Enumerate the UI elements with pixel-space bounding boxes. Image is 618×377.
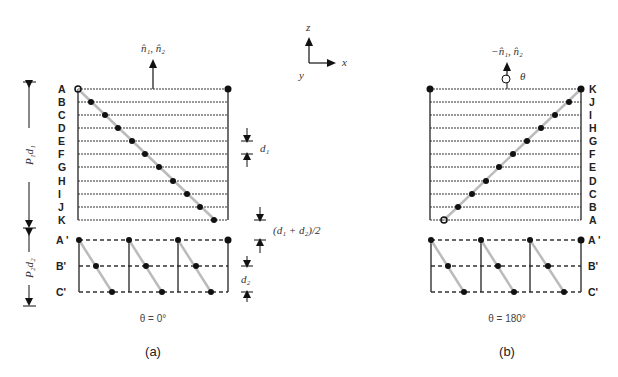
svg-text:B: B — [58, 96, 66, 108]
dim-p2d2-label: P₂d₂ — [23, 258, 35, 279]
svg-text:H: H — [589, 122, 597, 134]
diagram-canvas: n̂₁, n̂₂ — [0, 0, 618, 377]
svg-text:B': B' — [588, 260, 598, 272]
svg-text:F: F — [58, 148, 65, 160]
caption-a: (a) — [145, 344, 161, 359]
svg-text:B': B' — [56, 260, 66, 272]
svg-text:F: F — [589, 148, 596, 160]
dim-d1d2-label: (d₁ + d₂)/2 — [273, 224, 321, 237]
layer-stack-2-a — [76, 237, 232, 296]
svg-text:J: J — [589, 96, 595, 108]
panel-b: θ −n̂₁, n̂₂ — [427, 45, 601, 359]
svg-text:G: G — [58, 161, 66, 173]
svg-text:C': C' — [588, 286, 598, 298]
row-labels-a: A B C D E F G H I J K A ' B' C' — [56, 83, 69, 298]
caption-b: (b) — [499, 344, 515, 359]
svg-text:D: D — [589, 175, 597, 187]
svg-text:I: I — [58, 188, 61, 200]
svg-text:K: K — [589, 83, 597, 95]
row-labels-b: K J I H G F E D C B A A ' B' C' — [588, 83, 601, 298]
angle-label-a: θ = 0° — [140, 313, 167, 324]
svg-text:A: A — [58, 83, 66, 95]
normal-label-a: n̂₁, n̂₂ — [141, 42, 165, 54]
svg-text:A ': A ' — [588, 234, 601, 246]
svg-text:E: E — [589, 161, 596, 173]
rotation-label: θ — [520, 70, 526, 82]
svg-text:J: J — [58, 201, 64, 213]
dim-d2-label: d₂ — [241, 273, 251, 285]
svg-text:K: K — [58, 214, 66, 226]
rotation-icon — [502, 75, 510, 83]
svg-text:D: D — [58, 122, 66, 134]
normal-label-b: −n̂₁, n̂₂ — [491, 45, 523, 57]
svg-text:I: I — [589, 109, 592, 121]
axis-x-label: x — [341, 56, 347, 68]
coordinate-axes: z x y — [298, 21, 347, 81]
layer-stack-1-b — [427, 86, 585, 224]
svg-text:B: B — [589, 201, 597, 213]
svg-text:C: C — [58, 109, 66, 121]
svg-text:A: A — [589, 214, 597, 226]
svg-text:E: E — [58, 135, 65, 147]
axis-z-label: z — [305, 21, 311, 33]
svg-text:G: G — [589, 135, 597, 147]
panel-a: n̂₁, n̂₂ — [23, 42, 321, 359]
layer-stack-2-b — [428, 237, 585, 296]
angle-label-b: θ = 180° — [488, 313, 526, 324]
svg-text:C': C' — [56, 286, 66, 298]
svg-text:A ': A ' — [56, 234, 69, 246]
dim-d1-label: d₁ — [260, 142, 270, 154]
layer-stack-1-a — [75, 86, 232, 224]
svg-text:C: C — [589, 188, 597, 200]
svg-text:H: H — [58, 175, 66, 187]
axis-y-label: y — [298, 69, 304, 81]
dim-p1d1-label: P₁d₁ — [23, 145, 35, 166]
